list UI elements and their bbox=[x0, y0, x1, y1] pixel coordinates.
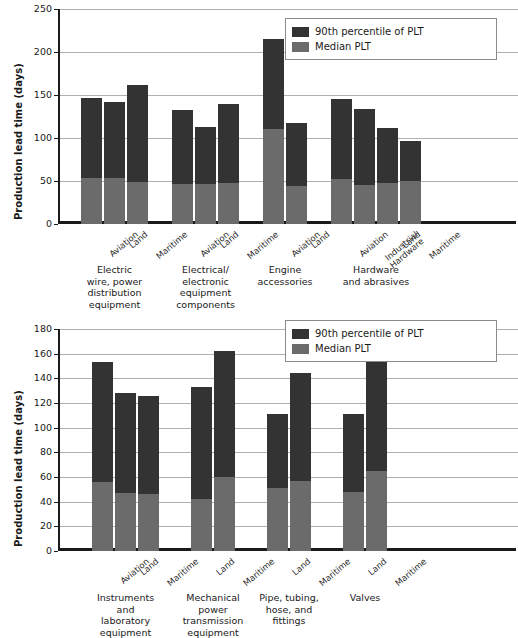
bar-median bbox=[92, 482, 113, 551]
legend-entry-label: 90th percentile of PLT bbox=[315, 328, 424, 339]
legend-color-swatch bbox=[292, 344, 309, 354]
bar-median bbox=[172, 184, 193, 224]
chart-production-lead-time-top: 050100150200250Production lead time (day… bbox=[0, 0, 518, 318]
bar-median bbox=[104, 178, 125, 224]
legend-color-swatch bbox=[292, 27, 309, 37]
bar-median bbox=[290, 481, 311, 551]
legend-color-swatch bbox=[292, 42, 309, 52]
y-axis-tick-label: 40 bbox=[22, 497, 52, 506]
bar-median bbox=[127, 182, 148, 224]
bar-median bbox=[195, 184, 216, 224]
y-axis-tick-label: 250 bbox=[22, 4, 52, 13]
y-axis-tick-mark bbox=[54, 403, 58, 404]
bar-median bbox=[81, 178, 102, 224]
legend-entry: 90th percentile of PLT bbox=[292, 24, 488, 39]
y-axis-tick-label: 80 bbox=[22, 447, 52, 456]
x-axis-category-label: Maritime bbox=[394, 557, 429, 588]
y-axis-title: Production lead time (days) bbox=[13, 390, 24, 547]
chart-production-lead-time-bottom: 020406080100120140160180Production lead … bbox=[0, 320, 518, 636]
bar-median bbox=[267, 488, 288, 551]
bar-median bbox=[214, 477, 235, 551]
x-axis-category-label: Land bbox=[367, 557, 389, 577]
legend-entry: 90th percentile of PLT bbox=[292, 326, 488, 341]
x-axis-group-label: Hardware and abrasives bbox=[324, 264, 428, 287]
y-axis-tick-label: 140 bbox=[22, 373, 52, 382]
legend-entry-label: Median PLT bbox=[315, 343, 371, 354]
x-axis-category-label: Maritime bbox=[318, 557, 353, 588]
y-axis-tick-label: 160 bbox=[22, 349, 52, 358]
y-axis-tick-mark bbox=[54, 452, 58, 453]
bar-median bbox=[263, 129, 284, 224]
y-axis-tick-label: 100 bbox=[22, 423, 52, 432]
y-axis-tick-mark bbox=[54, 181, 58, 182]
y-axis-tick-mark bbox=[54, 138, 58, 139]
bar-median bbox=[218, 183, 239, 224]
x-axis-category-label: Maritime bbox=[246, 230, 281, 261]
y-axis-tick-label: 120 bbox=[22, 398, 52, 407]
y-axis-tick-mark bbox=[54, 428, 58, 429]
y-axis-tick-label: 60 bbox=[22, 472, 52, 481]
bar-median bbox=[366, 471, 387, 551]
x-axis-category-label: Maritime bbox=[155, 230, 190, 261]
y-axis-tick-label: 200 bbox=[22, 47, 52, 56]
x-axis-category-label: Maritime bbox=[242, 557, 277, 588]
y-axis-tick-label: 150 bbox=[22, 90, 52, 99]
bar-median bbox=[377, 183, 398, 224]
legend-entry-label: 90th percentile of PLT bbox=[315, 26, 424, 37]
y-axis-tick-mark bbox=[54, 526, 58, 527]
chart-legend: 90th percentile of PLTMedian PLT bbox=[285, 18, 497, 60]
gridline bbox=[60, 9, 518, 10]
x-axis-category-label: Land bbox=[291, 557, 313, 577]
y-axis-tick-label: 20 bbox=[22, 521, 52, 530]
x-axis-group-label: Electric wire, power distribution equipm… bbox=[63, 264, 167, 310]
x-axis-category-label: Land bbox=[215, 557, 237, 577]
bar-median bbox=[286, 186, 307, 224]
gridline bbox=[60, 378, 518, 379]
y-axis-tick-mark bbox=[54, 224, 58, 225]
y-axis-tick-mark bbox=[54, 329, 58, 330]
y-axis-tick-label: 50 bbox=[22, 176, 52, 185]
bar-median bbox=[191, 499, 212, 551]
bar-median bbox=[115, 493, 136, 551]
y-axis-tick-label: 180 bbox=[22, 324, 52, 333]
legend-entry-label: Median PLT bbox=[315, 41, 371, 52]
y-axis-tick-mark bbox=[54, 502, 58, 503]
y-axis-tick-mark bbox=[54, 354, 58, 355]
x-axis-group-label: Valves bbox=[313, 592, 417, 604]
y-axis-tick-label: 0 bbox=[22, 546, 52, 555]
legend-entry: Median PLT bbox=[292, 341, 488, 356]
bar-median bbox=[354, 185, 375, 224]
chart-legend: 90th percentile of PLTMedian PLT bbox=[285, 320, 497, 362]
bar-median bbox=[343, 492, 364, 551]
x-axis-category-label: Maritime bbox=[166, 557, 201, 588]
x-axis-group-label: Engine accessories bbox=[233, 264, 337, 287]
bar-median bbox=[138, 494, 159, 551]
y-axis-tick-mark bbox=[54, 9, 58, 10]
y-axis-tick-mark bbox=[54, 95, 58, 96]
y-axis-title: Production lead time (days) bbox=[13, 63, 24, 220]
y-axis-tick-label: 100 bbox=[22, 133, 52, 142]
y-axis-tick-label: 0 bbox=[22, 219, 52, 228]
x-axis-category-label: Maritime bbox=[428, 230, 463, 261]
bar-median bbox=[400, 181, 421, 224]
y-axis-tick-mark bbox=[54, 378, 58, 379]
legend-entry: Median PLT bbox=[292, 39, 488, 54]
legend-color-swatch bbox=[292, 329, 309, 339]
y-axis-tick-mark bbox=[54, 52, 58, 53]
y-axis-tick-mark bbox=[54, 477, 58, 478]
y-axis-tick-mark bbox=[54, 551, 58, 552]
bar-median bbox=[331, 179, 352, 224]
